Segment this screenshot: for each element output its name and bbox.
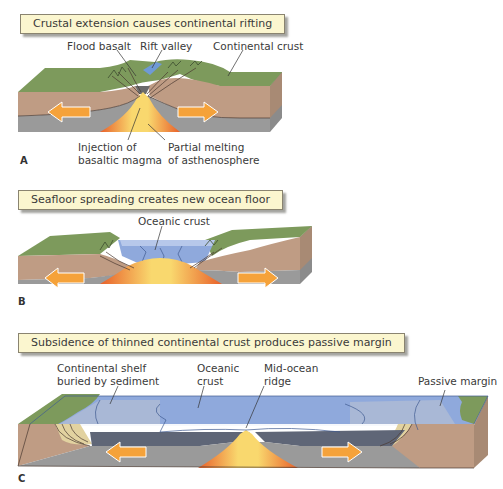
panel-letter-c: C bbox=[18, 473, 25, 484]
label-oceanic-crust-c: Oceanic crust bbox=[197, 362, 239, 388]
panel-c-diagram bbox=[0, 0, 503, 489]
label-continental-shelf: Continental shelf buried by sediment bbox=[57, 362, 159, 388]
label-mid-ocean-ridge: Mid-ocean ridge bbox=[264, 362, 318, 388]
label-passive-margin: Passive margin bbox=[418, 375, 497, 388]
